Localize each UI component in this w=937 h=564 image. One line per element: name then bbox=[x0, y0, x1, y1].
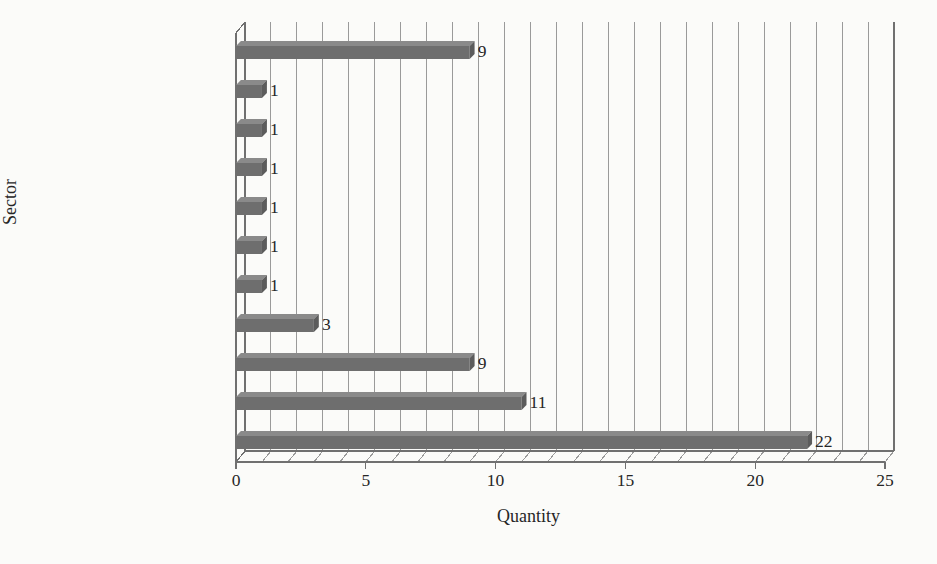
bar bbox=[236, 397, 522, 410]
gridline-depth-connector bbox=[677, 451, 686, 462]
bar bbox=[236, 436, 807, 449]
bar bbox=[236, 280, 262, 293]
y-axis-top-connector bbox=[236, 22, 245, 33]
bar bbox=[236, 124, 262, 137]
bar-value-label: 11 bbox=[530, 394, 547, 412]
bar-value-label: 9 bbox=[478, 355, 487, 373]
x-axis-tick-label: 0 bbox=[232, 470, 241, 491]
bar bbox=[236, 358, 470, 371]
gridline-depth-connector bbox=[729, 451, 738, 462]
x-axis-tick-label: 10 bbox=[487, 470, 505, 491]
bar-value-label: 1 bbox=[270, 160, 279, 178]
x-axis-tick-label: 15 bbox=[617, 470, 635, 491]
bar-top-face bbox=[236, 80, 267, 85]
bar-top-face bbox=[236, 119, 267, 124]
gridline-depth-connector bbox=[807, 451, 816, 462]
bar-value-label: 9 bbox=[478, 43, 487, 61]
xtick-marks-group bbox=[236, 462, 885, 469]
gridline-depth-connector bbox=[314, 451, 323, 462]
gridline-depth-connector bbox=[833, 451, 842, 462]
bar-top-face bbox=[236, 197, 267, 202]
bar-value-label: 1 bbox=[270, 277, 279, 295]
bar-value-label: 22 bbox=[815, 433, 833, 451]
y-axis-title: Sector bbox=[0, 142, 21, 262]
bar bbox=[236, 46, 470, 59]
gridline-depth-connector bbox=[781, 451, 790, 462]
bar-value-label: 3 bbox=[322, 316, 331, 334]
gridline-depth-connector bbox=[651, 451, 660, 462]
bar-top-face bbox=[236, 431, 812, 436]
gridline-depth-connector bbox=[418, 451, 427, 462]
gridline-depth-connector bbox=[573, 451, 582, 462]
bar-top-face bbox=[236, 275, 267, 280]
gridline-depth-connector bbox=[625, 451, 634, 462]
gridline-depth-connector bbox=[262, 451, 271, 462]
gridline-depth-connector bbox=[599, 451, 608, 462]
gridline-depth-connector bbox=[703, 451, 712, 462]
bar bbox=[236, 319, 314, 332]
bar bbox=[236, 85, 262, 98]
x-axis-tick-label: 20 bbox=[746, 470, 764, 491]
x-axis-tick-label: 25 bbox=[876, 470, 894, 491]
chart-page: Not ReportedOtherAir ConditioningOffice … bbox=[0, 0, 937, 564]
x-axis-title-text: Quantity bbox=[497, 506, 560, 527]
bar-top-face bbox=[236, 41, 475, 46]
gridline-depth-connector bbox=[522, 451, 531, 462]
x-axis-title: Quantity bbox=[0, 506, 937, 527]
gridline-depth-connector bbox=[366, 451, 375, 462]
bar-value-label: 1 bbox=[270, 199, 279, 217]
bar-value-label: 1 bbox=[270, 121, 279, 139]
bar-top-face bbox=[236, 392, 527, 397]
bar bbox=[236, 202, 262, 215]
bar bbox=[236, 163, 262, 176]
bar-value-label: 1 bbox=[270, 238, 279, 256]
x-axis-tick-label: 5 bbox=[361, 470, 370, 491]
bar bbox=[236, 241, 262, 254]
bar-top-face bbox=[236, 314, 319, 319]
gridline-depth-connector bbox=[496, 451, 505, 462]
y-axis-category-labels: Not ReportedOtherAir ConditioningOffice … bbox=[0, 0, 228, 564]
gridline-depth-connector bbox=[392, 451, 401, 462]
bar-top-face bbox=[236, 236, 267, 241]
gridline-depth-connector bbox=[885, 451, 894, 462]
gridline-depth-connector bbox=[288, 451, 297, 462]
gridline-depth-connector bbox=[548, 451, 557, 462]
gridline-depth-connector bbox=[859, 451, 868, 462]
bar-value-label: 1 bbox=[270, 82, 279, 100]
y-axis-title-text: Sector bbox=[0, 179, 20, 225]
gridline-depth-connector bbox=[470, 451, 479, 462]
origin-depth-connector bbox=[236, 451, 245, 462]
gridline-depth-connector bbox=[444, 451, 453, 462]
bar-top-face bbox=[236, 158, 267, 163]
bar-chart: Not ReportedOtherAir ConditioningOffice … bbox=[0, 0, 937, 564]
gridline-depth-connector bbox=[755, 451, 764, 462]
bar-top-face bbox=[236, 353, 475, 358]
gridline-depth-connector bbox=[340, 451, 349, 462]
